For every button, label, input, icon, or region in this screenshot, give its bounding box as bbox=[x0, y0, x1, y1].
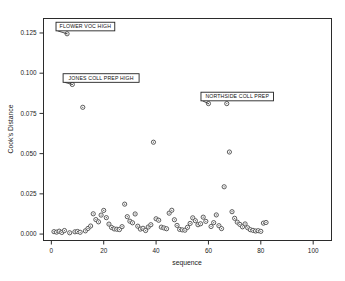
data-point-center bbox=[200, 223, 201, 224]
data-point-center bbox=[221, 228, 222, 229]
data-point-center bbox=[132, 222, 133, 223]
data-point-center bbox=[119, 229, 120, 230]
y-axis-title: Cook's Distance bbox=[7, 104, 14, 153]
data-point-center bbox=[153, 142, 154, 143]
y-tick-label: 0.025 bbox=[21, 190, 37, 197]
data-point-center bbox=[195, 220, 196, 221]
data-point-center bbox=[226, 103, 227, 104]
data-point-center bbox=[82, 107, 83, 108]
cooks-distance-chart: Cook's Distance 0.0000.0250.0500.0750.10… bbox=[0, 0, 345, 281]
x-tick-label: 40 bbox=[153, 247, 161, 254]
data-point-center bbox=[124, 204, 125, 205]
data-point-center bbox=[213, 222, 214, 223]
data-point-center bbox=[61, 232, 62, 233]
data-point-center bbox=[80, 232, 81, 233]
data-point-center bbox=[87, 228, 88, 229]
data-point-center bbox=[142, 228, 143, 229]
y-tick-label: 0.125 bbox=[21, 29, 37, 36]
data-points-layer bbox=[52, 32, 268, 235]
data-point-center bbox=[189, 223, 190, 224]
data-point-center bbox=[192, 217, 193, 218]
data-point-center bbox=[237, 222, 238, 223]
data-point-center bbox=[69, 232, 70, 233]
data-point-center bbox=[106, 217, 107, 218]
y-axis: 0.0000.0250.0500.0750.1000.125 bbox=[21, 29, 44, 237]
data-point-center bbox=[103, 210, 104, 211]
data-point-center bbox=[224, 186, 225, 187]
data-point-center bbox=[135, 213, 136, 214]
data-point-center bbox=[184, 230, 185, 231]
data-point-center bbox=[210, 226, 211, 227]
data-point-center bbox=[98, 221, 99, 222]
x-tick-label: 0 bbox=[50, 247, 54, 254]
data-point-center bbox=[176, 225, 177, 226]
data-point-center bbox=[121, 226, 122, 227]
data-point-center bbox=[100, 214, 101, 215]
annotation-label: JONES COLL PREP HIGH bbox=[69, 75, 134, 81]
plot-frame bbox=[44, 19, 332, 241]
annotation-label: FLOWER VOC HIGH bbox=[60, 23, 112, 29]
data-point-center bbox=[171, 210, 172, 211]
data-point-center bbox=[169, 213, 170, 214]
y-tick-label: 0.100 bbox=[21, 69, 37, 76]
data-point-center bbox=[247, 227, 248, 228]
data-point-center bbox=[187, 227, 188, 228]
data-point-center bbox=[95, 219, 96, 220]
data-point-center bbox=[174, 219, 175, 220]
x-tick-label: 60 bbox=[205, 247, 213, 254]
data-point-center bbox=[166, 228, 167, 229]
annotation-label: NORTHSIDE COLL PREP bbox=[205, 93, 269, 99]
clipped-chart-title: Cook's Distance bbox=[6, 0, 67, 2]
data-point-center bbox=[239, 224, 240, 225]
data-point-center bbox=[137, 226, 138, 227]
y-tick-label: 0.050 bbox=[21, 150, 37, 157]
data-point-center bbox=[108, 223, 109, 224]
data-point-center bbox=[93, 213, 94, 214]
x-tick-label: 80 bbox=[257, 247, 265, 254]
data-point-center bbox=[260, 231, 261, 232]
scatter-plot-svg: 0.0000.0250.0500.0750.1000.125 020406080… bbox=[0, 0, 345, 281]
data-point-center bbox=[231, 211, 232, 212]
annotations-layer: FLOWER VOC HIGHJONES COLL PREP HIGHNORTH… bbox=[56, 22, 274, 103]
data-point-center bbox=[244, 223, 245, 224]
data-point-center bbox=[205, 221, 206, 222]
data-point-center bbox=[265, 222, 266, 223]
data-point-center bbox=[234, 218, 235, 219]
y-tick-label: 0.075 bbox=[21, 110, 37, 117]
data-point-center bbox=[90, 225, 91, 226]
x-axis: 020406080100 bbox=[50, 241, 319, 254]
data-point-center bbox=[148, 226, 149, 227]
data-point-center bbox=[64, 230, 65, 231]
data-point-center bbox=[150, 224, 151, 225]
data-point-center bbox=[145, 230, 146, 231]
data-point-center bbox=[203, 217, 204, 218]
x-axis-title: sequence bbox=[172, 259, 202, 267]
data-point-center bbox=[127, 216, 128, 217]
data-point-center bbox=[229, 151, 230, 152]
data-point-center bbox=[218, 225, 219, 226]
x-tick-label: 20 bbox=[100, 247, 108, 254]
data-point-center bbox=[85, 230, 86, 231]
data-point-center bbox=[158, 220, 159, 221]
data-point-center bbox=[216, 214, 217, 215]
y-tick-label: 0.000 bbox=[21, 230, 37, 237]
data-point-center bbox=[242, 226, 243, 227]
x-tick-label: 100 bbox=[308, 247, 319, 254]
